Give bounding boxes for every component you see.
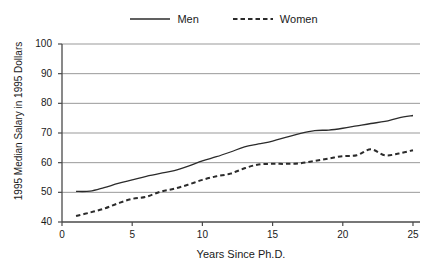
x-tick-label: 5 xyxy=(119,230,145,240)
data-series xyxy=(76,116,413,217)
y-tick-label: 50 xyxy=(26,187,52,197)
salary-line-chart: Men Women 1995 Median Salary in 1995 Dol… xyxy=(0,0,448,273)
x-tick-label: 20 xyxy=(330,230,356,240)
axis-ticks xyxy=(58,44,413,226)
y-tick-label: 100 xyxy=(26,39,52,49)
x-tick-label: 10 xyxy=(189,230,215,240)
y-tick-label: 60 xyxy=(26,158,52,168)
y-tick-label: 90 xyxy=(26,69,52,79)
y-tick-label: 40 xyxy=(26,217,52,227)
series-line-women xyxy=(76,149,413,216)
y-tick-label: 70 xyxy=(26,128,52,138)
x-tick-label: 15 xyxy=(260,230,286,240)
y-tick-label: 80 xyxy=(26,98,52,108)
x-tick-label: 0 xyxy=(49,230,75,240)
x-tick-label: 25 xyxy=(400,230,426,240)
gridlines xyxy=(62,44,420,192)
